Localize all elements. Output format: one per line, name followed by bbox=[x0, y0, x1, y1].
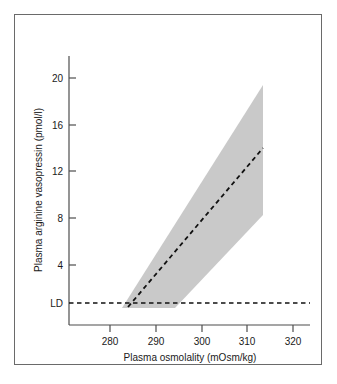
figure-root: 20 16 12 8 4 LD 280 290 300 310 320 Plas… bbox=[0, 0, 337, 384]
x-axis-title: Plasma osmolality (mOsm/kg) bbox=[124, 352, 257, 363]
y-tick-label-20: 20 bbox=[52, 73, 64, 84]
x-tick-label-300: 300 bbox=[194, 336, 211, 347]
scatter-chart: 20 16 12 8 4 LD 280 290 300 310 320 Plas… bbox=[0, 0, 337, 384]
x-tick-label-290: 290 bbox=[148, 336, 165, 347]
x-tick-label-310: 310 bbox=[239, 336, 256, 347]
y-tick-label-16: 16 bbox=[52, 120, 64, 131]
y-tick-label-ld: LD bbox=[50, 298, 63, 309]
x-tick-label-320: 320 bbox=[285, 336, 302, 347]
x-tick-label-280: 280 bbox=[102, 336, 119, 347]
y-tick-label-8: 8 bbox=[57, 213, 63, 224]
y-axis-title: Plasma arginine vasopressin (pmol/l) bbox=[33, 108, 44, 272]
y-tick-label-4: 4 bbox=[57, 260, 63, 271]
y-tick-label-12: 12 bbox=[52, 166, 64, 177]
reference-range-band bbox=[122, 85, 263, 308]
